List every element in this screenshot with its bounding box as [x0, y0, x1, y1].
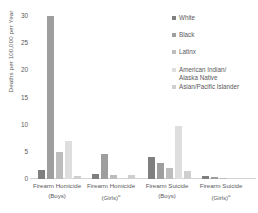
legend-swatch-icon [172, 68, 176, 72]
y-tick-label: 30 [10, 13, 28, 19]
y-tick-label: 20 [10, 67, 28, 73]
legend-item[interactable]: Asian/Pacific Islander [172, 83, 239, 91]
x-label-footnote-marker: a [228, 193, 230, 198]
x-label-line2: (Girls)a [188, 191, 254, 203]
bar [157, 163, 164, 179]
x-axis-labels: Firearm Homicide(Boys)Firearm Homicide(G… [30, 181, 256, 213]
bar [148, 157, 155, 179]
bar [92, 174, 99, 179]
bar [38, 170, 45, 179]
y-tick-label: 10 [10, 121, 28, 127]
legend-swatch-icon [172, 50, 176, 54]
legend-item-label: Asian/Pacific Islander [179, 83, 239, 91]
legend-item-label: White [179, 14, 195, 22]
x-label-footnote-marker: a [118, 193, 120, 198]
x-label-line1: Firearm Suicide [200, 182, 243, 189]
legend-item[interactable]: Black [172, 31, 194, 39]
legend-item-label: Black [179, 31, 194, 39]
plot-area [30, 16, 256, 179]
x-label-line1: Firearm Homicide [87, 182, 135, 189]
bar [65, 141, 72, 179]
bar-group [38, 16, 83, 179]
legend-item[interactable]: White [172, 14, 195, 22]
bar [128, 175, 135, 179]
bar [101, 154, 108, 179]
bar [166, 168, 173, 179]
legend-item[interactable]: Latinx [172, 48, 196, 56]
bar-group [148, 16, 193, 179]
legend-swatch-icon [172, 85, 176, 89]
bar [175, 126, 182, 179]
legend-item-label: American Indian/ Alaska Native [179, 66, 226, 81]
y-tick-label: 5 [10, 149, 28, 155]
x-axis-group-label: Firearm Suicide(Girls)a [188, 181, 254, 202]
bar [211, 177, 218, 179]
bar-group [202, 16, 247, 179]
legend-swatch-icon [172, 16, 176, 20]
bar [220, 178, 227, 179]
bar [202, 176, 209, 179]
bar-chart: Deaths per 100,000 per Year 051015202530… [0, 0, 258, 213]
bar [184, 171, 191, 179]
y-tick-label: 15 [10, 94, 28, 100]
legend-item[interactable]: American Indian/ Alaska Native [172, 66, 226, 81]
bar [47, 16, 54, 179]
bar [110, 175, 117, 179]
bar [56, 152, 63, 179]
bar [74, 176, 81, 179]
x-label-line1: Firearm Homicide [33, 182, 81, 189]
legend-item-label: Latinx [179, 48, 196, 56]
legend-swatch-icon [172, 33, 176, 37]
y-tick-label: 25 [10, 40, 28, 46]
x-label-line1: Firearm Suicide [146, 182, 189, 189]
bar-group [92, 16, 137, 179]
